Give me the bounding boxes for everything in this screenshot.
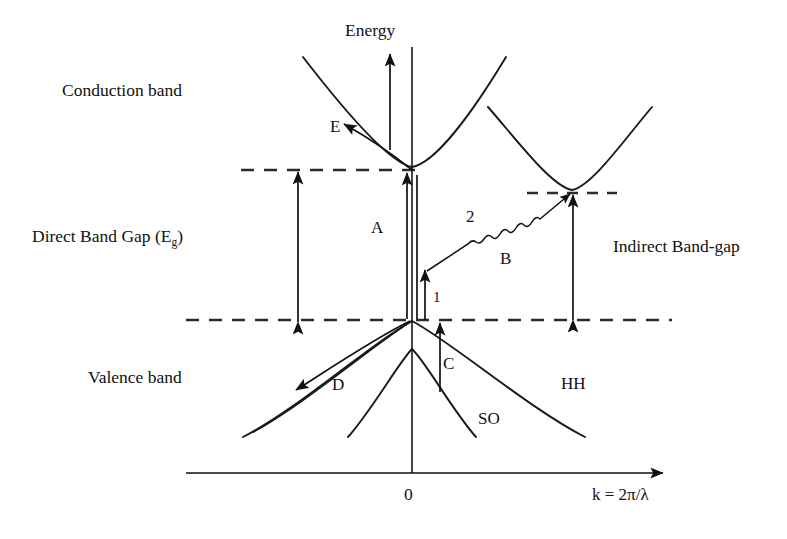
split-off-band-label: SO: [478, 410, 500, 427]
valence-band-heavy-hole-curve: [243, 321, 585, 437]
transition-2-label: 2: [466, 208, 475, 225]
transition-e-label: E: [330, 118, 340, 135]
direct-band-gap-label: Direct Band Gap (Eg): [32, 228, 183, 248]
transition-c-label: C: [443, 355, 454, 372]
transition-2-phonon-wavy-arrow: [427, 194, 570, 271]
conduction-band-direct-curve: [303, 57, 506, 167]
heavy-hole-band-label: HH: [561, 375, 586, 392]
transition-d-label: D: [332, 376, 344, 393]
transition-a-label: A: [371, 219, 383, 236]
k-axis-label: k = 2π/λ: [592, 486, 649, 503]
direct-band-gap-paren: ): [177, 226, 183, 246]
transition-1-label: 1: [433, 290, 441, 305]
energy-axis-label: Energy: [345, 22, 395, 40]
origin-label: 0: [404, 486, 413, 504]
valence-band-label: Valence band: [88, 369, 182, 387]
band-structure-diagram: Energy Conduction band Direct Band Gap (…: [0, 0, 787, 539]
conduction-band-indirect-curve: [488, 107, 652, 190]
transition-b-label: B: [500, 250, 511, 267]
conduction-band-label: Conduction band: [62, 82, 182, 100]
transition-d-arrow: [296, 321, 410, 390]
indirect-band-gap-label: Indirect Band-gap: [613, 238, 740, 256]
direct-band-gap-text: Direct Band Gap (E: [32, 226, 171, 246]
